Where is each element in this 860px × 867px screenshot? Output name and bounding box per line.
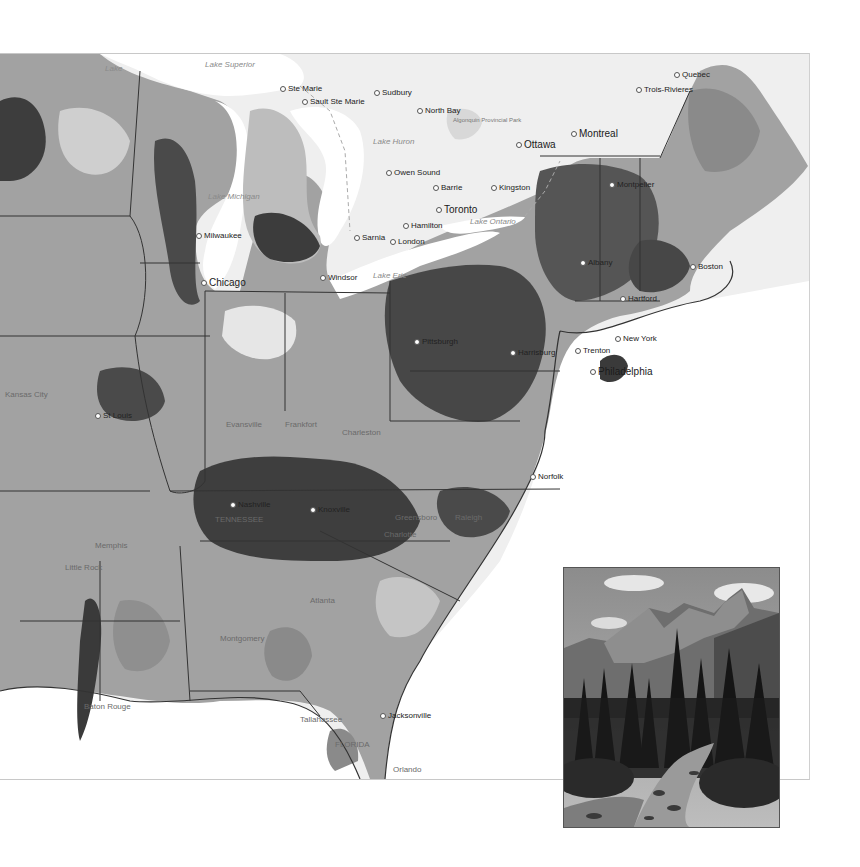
map-label-text: Atlanta	[310, 596, 335, 605]
map-label-greensboro: Greensboro	[395, 514, 437, 522]
map-label-text: London	[398, 237, 425, 246]
map-label-text: TENNESSEE	[215, 515, 263, 524]
map-label-tallahassee: Tallahassee	[300, 716, 342, 724]
map-label-nashville: Nashville	[230, 501, 270, 509]
map-label-norfolk: Norfolk	[530, 473, 563, 481]
city-marker-icon	[310, 507, 316, 513]
map-label-text: Quebec	[682, 70, 710, 79]
map-label-philadelphia: Philadelphia	[590, 367, 653, 377]
map-label-text: Lake Ontario	[470, 217, 516, 226]
map-label-text: Montgomery	[220, 634, 264, 643]
map-label-text: Evansville	[226, 420, 262, 429]
map-label-lake-erie: Lake Erie	[373, 272, 407, 280]
inset-photo-mountain-stream	[563, 567, 780, 828]
map-label-montpelier: Montpelier	[609, 181, 654, 189]
map-label-text: Knoxville	[318, 505, 350, 514]
map-label-text: Windsor	[328, 273, 357, 282]
map-label-text: Lake Huron	[373, 137, 414, 146]
map-label-text: St Louis	[103, 411, 132, 420]
map-label-text: Memphis	[95, 541, 127, 550]
map-label-memphis: Memphis	[95, 542, 127, 550]
city-marker-icon	[690, 264, 696, 270]
city-marker-icon	[320, 275, 326, 281]
map-label-text: Harrisburg	[518, 348, 555, 357]
city-marker-icon	[580, 260, 586, 266]
map-label-london: London	[390, 238, 425, 246]
map-label-text: Norfolk	[538, 472, 563, 481]
city-marker-icon	[575, 348, 581, 354]
city-marker-icon	[571, 131, 577, 137]
map-label-lake-huron: Lake Huron	[373, 138, 414, 146]
map-label-st-louis: St Louis	[95, 412, 132, 420]
city-marker-icon	[615, 336, 621, 342]
city-marker-icon	[491, 185, 497, 191]
map-label-jacksonville: Jacksonville	[380, 712, 431, 720]
city-marker-icon	[636, 87, 642, 93]
map-label-charlotte: Charlotte	[384, 531, 416, 539]
map-label-kansas-city: Kansas City	[5, 391, 48, 399]
city-marker-icon	[386, 170, 392, 176]
mountain-stream-photo	[564, 568, 779, 827]
map-label-frankfort: Frankfort	[285, 421, 317, 429]
map-label-algonquin-provincial-park: Algonquin Provincial Park	[453, 117, 521, 124]
map-label-text: Albany	[588, 258, 612, 267]
map-label-text: Lake	[105, 64, 122, 73]
map-label-quebec: Quebec	[674, 71, 710, 79]
map-label-ottawa: Ottawa	[516, 140, 556, 150]
city-marker-icon	[590, 369, 596, 375]
map-label-text: Charleston	[342, 428, 381, 437]
map-label-text: Sarnia	[362, 233, 385, 242]
map-label-hartford: Hartford	[620, 295, 657, 303]
map-label-text: Milwaukee	[204, 231, 242, 240]
city-marker-icon	[620, 296, 626, 302]
map-label-text: Ottawa	[524, 139, 556, 150]
map-label-text: Montreal	[579, 128, 618, 139]
map-label-text: Lake Superior	[205, 60, 255, 69]
map-label-little-rock: Little Rock	[65, 564, 102, 572]
map-label-text: Philadelphia	[598, 366, 653, 377]
map-label-hamilton: Hamilton	[403, 222, 443, 230]
map-label-text: Greensboro	[395, 513, 437, 522]
map-label-text: Sault Ste Marie	[310, 97, 365, 106]
map-label-text: Hamilton	[411, 221, 443, 230]
map-label-text: Tallahassee	[300, 715, 342, 724]
map-label-text: Ste Marie	[288, 84, 322, 93]
map-label-text: Orlando	[393, 765, 421, 774]
map-label-text: Trois-Rivieres	[644, 85, 693, 94]
map-label-ste-marie: Ste Marie	[280, 85, 322, 93]
map-label-text: New York	[623, 334, 657, 343]
map-label-chicago: Chicago	[201, 278, 246, 288]
city-marker-icon	[403, 223, 409, 229]
map-label-evansville: Evansville	[226, 421, 262, 429]
city-marker-icon	[530, 474, 536, 480]
map-label-milwaukee: Milwaukee	[196, 232, 242, 240]
map-label-toronto: Toronto	[436, 205, 477, 215]
map-label-albany: Albany	[580, 259, 612, 267]
map-label-atlanta: Atlanta	[310, 597, 335, 605]
city-marker-icon	[436, 207, 442, 213]
city-marker-icon	[374, 90, 380, 96]
map-label-text: Little Rock	[65, 563, 102, 572]
map-label-text: Lake Michigan	[208, 192, 260, 201]
map-label-text: Trenton	[583, 346, 610, 355]
map-label-knoxville: Knoxville	[310, 506, 350, 514]
map-label-text: FLORIDA	[335, 740, 370, 749]
map-label-barrie: Barrie	[433, 184, 462, 192]
city-marker-icon	[417, 108, 423, 114]
city-marker-icon	[196, 233, 202, 239]
map-label-text: Hartford	[628, 294, 657, 303]
map-label-tennessee: TENNESSEE	[215, 516, 263, 524]
map-label-montreal: Montreal	[571, 129, 618, 139]
map-label-text: Raleigh	[455, 513, 482, 522]
map-label-text: Lake Erie	[373, 271, 407, 280]
map-label-pittsburgh: Pittsburgh	[414, 338, 458, 346]
map-label-lake-ontario: Lake Ontario	[470, 218, 516, 226]
map-label-lake-superior: Lake Superior	[205, 61, 255, 69]
map-label-charleston: Charleston	[342, 429, 381, 437]
map-label-text: Toronto	[444, 204, 477, 215]
map-label-text: Sudbury	[382, 88, 412, 97]
map-label-kingston: Kingston	[491, 184, 530, 192]
map-label-text: North Bay	[425, 106, 461, 115]
city-marker-icon	[354, 235, 360, 241]
map-label-text: Owen Sound	[394, 168, 440, 177]
